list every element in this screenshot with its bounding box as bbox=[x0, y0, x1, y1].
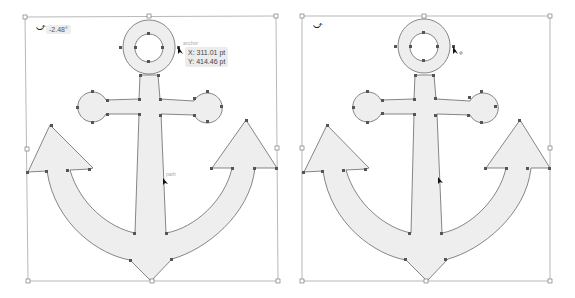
arrow-cursor-icon bbox=[438, 177, 443, 184]
arrow-cursor-icon bbox=[453, 46, 458, 54]
rotation-angle-badge: -2.48° bbox=[46, 25, 71, 34]
left-canvas-panel: ⤻ -2.48° anchor X: 311.01 pt Y: 414.46 p… bbox=[0, 0, 287, 298]
coordinates-tooltip: X: 311.01 pt Y: 414.46 pt bbox=[185, 47, 228, 67]
arrow-cursor-icon bbox=[178, 46, 183, 54]
anchor-shape[interactable] bbox=[28, 20, 277, 281]
path-hint-label: path bbox=[166, 171, 176, 177]
anchor-shape[interactable] bbox=[304, 19, 550, 281]
y-coordinate: Y: 414.46 pt bbox=[188, 57, 225, 66]
rotate-icon: ⤻ bbox=[36, 22, 46, 33]
cursor-badge-icon bbox=[460, 52, 462, 54]
anchor-artwork-rotating[interactable] bbox=[0, 0, 287, 298]
x-coordinate: X: 311.01 pt bbox=[188, 48, 225, 57]
rotate-icon: ⤻ bbox=[313, 20, 323, 31]
anchor-artwork[interactable] bbox=[288, 0, 575, 298]
smart-guide-label: anchor bbox=[183, 40, 198, 46]
right-canvas-panel: ⤻ bbox=[288, 0, 575, 298]
arrow-cursor-icon bbox=[163, 178, 168, 185]
